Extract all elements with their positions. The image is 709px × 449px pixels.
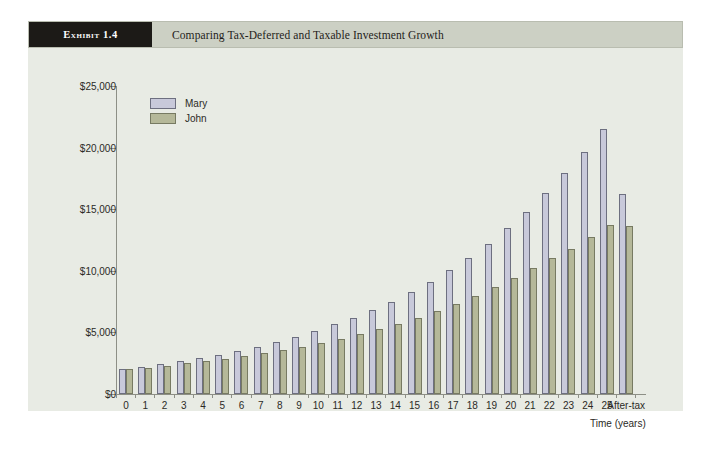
bar-john xyxy=(472,296,479,394)
x-axis-title: Time (years) xyxy=(590,418,646,429)
x-axis-tick-mark xyxy=(501,394,502,398)
bar-mary xyxy=(427,282,434,394)
x-axis-tick-label: 12 xyxy=(351,400,362,411)
chart-legend: MaryJohn xyxy=(150,98,207,128)
x-axis-tick-mark xyxy=(193,394,194,398)
bar-group xyxy=(119,86,138,394)
x-axis-tick-label: 6 xyxy=(239,400,245,411)
bar-john xyxy=(568,249,575,394)
bars-layer xyxy=(116,86,646,394)
bar-john xyxy=(357,334,364,394)
bar-group xyxy=(311,86,330,394)
bar-mary xyxy=(138,367,145,394)
bar-john xyxy=(241,356,248,394)
x-axis-tick-label: 9 xyxy=(296,400,302,411)
x-axis-tick-label: After-tax xyxy=(607,400,645,411)
bar-john xyxy=(626,226,633,394)
bar-mary xyxy=(350,318,357,394)
x-axis-tick-mark xyxy=(558,394,559,398)
bar-mary xyxy=(177,361,184,394)
bar-group xyxy=(504,86,523,394)
bar-mary xyxy=(119,369,126,394)
bar-john xyxy=(280,350,287,394)
bar-group xyxy=(619,86,638,394)
x-axis-tick-label: 20 xyxy=(505,400,516,411)
x-axis-tick-label: 22 xyxy=(544,400,555,411)
x-axis-tick-mark xyxy=(212,394,213,398)
bar-group xyxy=(138,86,157,394)
bar-group xyxy=(273,86,292,394)
bar-john xyxy=(453,304,460,394)
chart-plot-region: $0$5,000$10,000$15,000$20,000$25,000 012… xyxy=(28,48,683,411)
x-axis-tick-label: 16 xyxy=(428,400,439,411)
legend-label: Mary xyxy=(185,98,207,109)
bar-group xyxy=(446,86,465,394)
x-axis-tick-mark xyxy=(520,394,521,398)
bar-group xyxy=(561,86,580,394)
exhibit-header-bar: Exhibit 1.4 Comparing Tax-Deferred and T… xyxy=(28,21,683,48)
legend-swatch xyxy=(150,98,176,109)
bar-john xyxy=(376,329,383,394)
x-axis-tick-label: 2 xyxy=(162,400,168,411)
x-axis-tick-mark xyxy=(251,394,252,398)
bar-group xyxy=(292,86,311,394)
bar-john xyxy=(549,258,556,394)
x-axis-tick-mark xyxy=(635,394,636,398)
bar-john xyxy=(126,369,133,394)
bar-group xyxy=(234,86,253,394)
x-axis-tick-mark xyxy=(482,394,483,398)
bar-group xyxy=(388,86,407,394)
bar-group xyxy=(254,86,273,394)
x-axis-tick-mark xyxy=(424,394,425,398)
bar-john xyxy=(395,324,402,394)
bar-mary xyxy=(408,292,415,394)
bar-mary xyxy=(369,310,376,394)
bar-john xyxy=(222,359,229,394)
bar-john xyxy=(434,311,441,394)
exhibit-tag-label: Exhibit 1.4 xyxy=(63,29,118,40)
bar-john xyxy=(164,366,171,394)
x-axis-tick-mark xyxy=(385,394,386,398)
exhibit-title: Comparing Tax-Deferred and Taxable Inves… xyxy=(152,22,444,47)
y-axis-tick-label: $0 xyxy=(40,389,116,400)
legend-swatch xyxy=(150,113,176,124)
x-axis-tick-label: 23 xyxy=(563,400,574,411)
bar-mary xyxy=(234,351,241,394)
bar-mary xyxy=(619,194,626,394)
bar-john xyxy=(184,363,191,394)
exhibit-tag: Exhibit 1.4 xyxy=(29,22,152,47)
x-axis-tick-label: 10 xyxy=(313,400,324,411)
x-axis-tick-label: 4 xyxy=(200,400,206,411)
x-axis-tick-label: 19 xyxy=(486,400,497,411)
x-axis-tick-label: 11 xyxy=(332,400,342,411)
bar-mary xyxy=(504,228,511,394)
bar-john xyxy=(203,361,210,394)
bar-group xyxy=(369,86,388,394)
x-axis-tick-label: 18 xyxy=(467,400,478,411)
x-axis-tick-mark xyxy=(462,394,463,398)
x-axis-tick-mark xyxy=(270,394,271,398)
bar-mary xyxy=(215,355,222,394)
x-axis-tick-label: 0 xyxy=(123,400,129,411)
x-axis-tick-mark xyxy=(443,394,444,398)
bar-mary xyxy=(600,129,607,394)
bar-group xyxy=(523,86,542,394)
bar-group xyxy=(408,86,427,394)
x-axis-tick-mark xyxy=(231,394,232,398)
bar-group xyxy=(157,86,176,394)
x-axis-tick-mark xyxy=(174,394,175,398)
x-axis-tick-label: 7 xyxy=(258,400,264,411)
y-axis-tick-label: $15,000 xyxy=(40,204,116,215)
bar-group xyxy=(350,86,369,394)
bar-mary xyxy=(388,302,395,394)
bar-john xyxy=(607,225,614,394)
bar-group xyxy=(600,86,619,394)
bar-mary xyxy=(157,364,164,394)
bar-john xyxy=(511,278,518,394)
x-axis-tick-label: 21 xyxy=(524,400,535,411)
x-axis-tick-label: 17 xyxy=(447,400,458,411)
x-axis-tick-mark xyxy=(328,394,329,398)
exhibit-figure: Exhibit 1.4 Comparing Tax-Deferred and T… xyxy=(28,21,683,411)
bar-john xyxy=(261,353,268,394)
x-axis-tick-label: 13 xyxy=(371,400,382,411)
